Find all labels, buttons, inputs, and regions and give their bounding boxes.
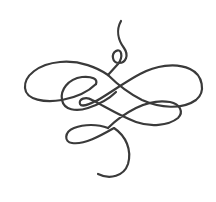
flourish-icon <box>0 0 216 202</box>
flourish-ornament: Decorative calligraphic flourish ornamen… <box>0 0 216 202</box>
